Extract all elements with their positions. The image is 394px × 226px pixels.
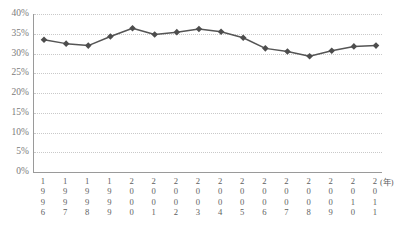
x-tick-digit: 2 — [212, 176, 228, 186]
data-point-marker — [174, 29, 181, 36]
x-tick-digit: 1 — [101, 176, 117, 186]
x-tick-digit: 0 — [278, 197, 294, 207]
data-point-marker — [328, 47, 335, 54]
x-tick-digit: 2 — [301, 176, 317, 186]
data-point-marker — [240, 34, 247, 41]
x-tick-label: 2007 — [278, 176, 294, 217]
y-tick-label: 0% — [16, 167, 29, 177]
x-tick-digit: 9 — [57, 186, 73, 196]
x-tick-digit: 1 — [146, 207, 162, 217]
x-tick-digit: 2 — [168, 207, 184, 217]
x-tick-digit: 9 — [35, 186, 51, 196]
data-point-marker — [107, 33, 114, 40]
x-tick-label: 2001 — [146, 176, 162, 217]
y-tick-label: 25% — [12, 69, 29, 79]
x-tick-digit: 6 — [256, 207, 272, 217]
x-tick-digit: 2 — [278, 176, 294, 186]
x-tick-digit: 0 — [190, 186, 206, 196]
x-tick-digit: 9 — [323, 207, 339, 217]
x-tick-digit: 0 — [146, 197, 162, 207]
x-tick-label: 2003 — [190, 176, 206, 217]
x-tick-digit: 7 — [278, 207, 294, 217]
x-tick-digit: 0 — [323, 186, 339, 196]
x-tick-digit: 0 — [146, 186, 162, 196]
x-tick-digit: 0 — [367, 186, 383, 196]
x-tick-digit: 0 — [345, 186, 361, 196]
x-tick-label: 2008 — [301, 176, 317, 217]
x-tick-digit: 9 — [79, 197, 95, 207]
x-tick-digit: 0 — [278, 186, 294, 196]
x-tick-label: 2006 — [256, 176, 272, 217]
x-axis-labels: 1996199719981999200020012002200320042005… — [33, 176, 381, 226]
x-tick-digit: 9 — [101, 197, 117, 207]
y-tick-label: 5% — [16, 148, 29, 158]
x-tick-digit: 9 — [101, 186, 117, 196]
x-tick-digit: 9 — [35, 197, 51, 207]
data-point-marker — [85, 42, 92, 49]
y-tick-label: 20% — [12, 88, 29, 98]
data-point-marker — [151, 31, 158, 38]
x-tick-digit: 9 — [79, 186, 95, 196]
x-tick-digit: 0 — [168, 186, 184, 196]
x-tick-digit: 1 — [79, 176, 95, 186]
data-point-marker — [63, 40, 70, 47]
x-tick-digit: 3 — [190, 207, 206, 217]
x-tick-digit: 1 — [35, 176, 51, 186]
x-tick-digit: 4 — [212, 207, 228, 217]
x-tick-digit: 8 — [301, 207, 317, 217]
x-tick-digit: 0 — [234, 197, 250, 207]
x-tick-digit: 0 — [301, 186, 317, 196]
x-tick-digit: 0 — [124, 207, 140, 217]
data-point-marker — [262, 45, 269, 52]
x-tick-digit: 2 — [168, 176, 184, 186]
x-tick-label: 1996 — [35, 176, 51, 217]
plot-area — [33, 14, 382, 173]
x-tick-label: 2002 — [168, 176, 184, 217]
x-tick-label: 2010 — [345, 176, 361, 217]
data-point-marker — [218, 28, 225, 35]
x-tick-digit: 0 — [212, 186, 228, 196]
y-tick-label: 35% — [12, 29, 29, 39]
x-tick-digit: 1 — [367, 207, 383, 217]
y-axis-labels: 0%5%10%15%20%25%30%35%40% — [0, 0, 32, 226]
x-tick-digit: 2 — [190, 176, 206, 186]
x-tick-label: 2005 — [234, 176, 250, 217]
x-tick-digit: 6 — [35, 207, 51, 217]
x-tick-digit: 2 — [146, 176, 162, 186]
x-tick-digit: 1 — [345, 197, 361, 207]
series-layer — [34, 14, 382, 172]
x-tick-digit: 0 — [234, 186, 250, 196]
x-tick-digit: 5 — [234, 207, 250, 217]
x-tick-label: 1999 — [101, 176, 117, 217]
x-tick-digit: 0 — [212, 197, 228, 207]
x-tick-digit: 2 — [345, 176, 361, 186]
x-tick-label: 1997 — [57, 176, 73, 217]
x-tick-digit: 9 — [57, 197, 73, 207]
x-tick-digit: 8 — [79, 207, 95, 217]
data-point-marker — [351, 43, 358, 50]
x-tick-digit: 0 — [301, 197, 317, 207]
y-tick-label: 10% — [12, 128, 29, 138]
data-point-marker — [284, 48, 291, 55]
x-axis-unit-label: (年) — [380, 178, 394, 187]
data-point-marker — [373, 42, 380, 49]
x-tick-digit: 0 — [256, 197, 272, 207]
x-tick-digit: 2 — [323, 176, 339, 186]
x-tick-digit: 0 — [190, 197, 206, 207]
x-tick-label: 2009 — [323, 176, 339, 217]
x-tick-digit: 2 — [234, 176, 250, 186]
x-tick-digit: 0 — [256, 186, 272, 196]
x-tick-digit: 0 — [168, 197, 184, 207]
data-point-marker — [196, 26, 203, 33]
data-point-marker — [306, 53, 313, 60]
x-tick-digit: 7 — [57, 207, 73, 217]
x-tick-label: 1998 — [79, 176, 95, 217]
x-tick-label: 2000 — [124, 176, 140, 217]
data-point-marker — [41, 36, 48, 43]
x-tick-label: 2004 — [212, 176, 228, 217]
x-tick-digit: 1 — [367, 197, 383, 207]
y-tick-label: 15% — [12, 108, 29, 118]
x-tick-digit: 0 — [124, 186, 140, 196]
x-tick-digit: 0 — [124, 197, 140, 207]
